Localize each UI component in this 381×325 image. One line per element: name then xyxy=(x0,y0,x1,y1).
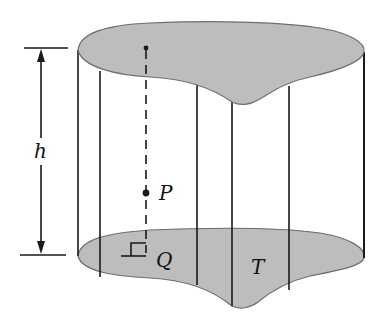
arrow-down-icon xyxy=(37,241,45,254)
top-point-dot xyxy=(144,46,149,51)
cylinder-diagram: P Q T h xyxy=(0,0,381,325)
label-h: h xyxy=(34,139,47,163)
label-p: P xyxy=(158,181,173,205)
bottom-base-region xyxy=(78,228,364,308)
arrow-up-icon xyxy=(37,49,45,62)
label-q: Q xyxy=(156,248,172,272)
point-p-dot xyxy=(143,190,150,197)
label-t: T xyxy=(251,255,266,279)
top-surface-region xyxy=(78,22,364,105)
